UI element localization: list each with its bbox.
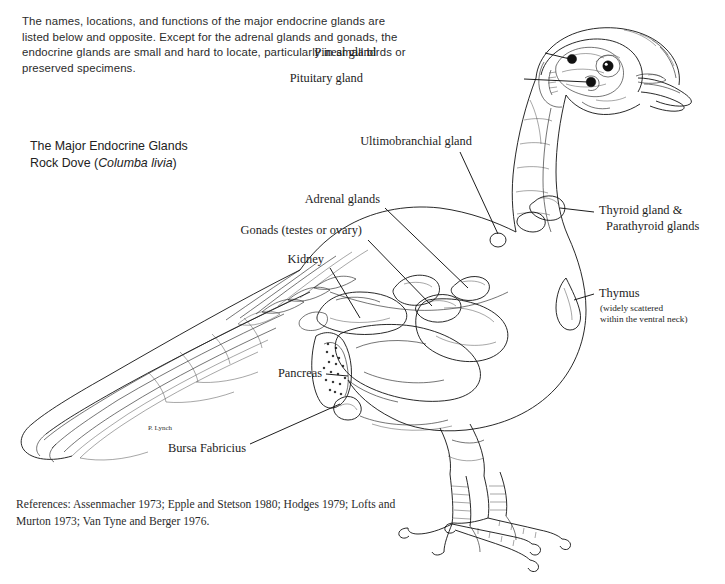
legs-and-feet — [399, 424, 571, 572]
leader-lines — [250, 53, 594, 444]
label-thymus-note-line2: within the ventral neck) — [600, 314, 688, 325]
kidney-shape — [317, 292, 407, 335]
leader-adrenal — [385, 208, 468, 288]
label-parathyroid-glands-line2: Parathyroid glands — [606, 219, 699, 234]
leader-bursa — [250, 404, 340, 444]
subtitle-common-name: Rock Dove ( — [30, 156, 98, 170]
leader-thyroid — [560, 208, 594, 212]
figure-title-block: The Major Endocrine Glands Rock Dove (Co… — [30, 138, 188, 171]
leader-pancreas — [326, 374, 348, 376]
label-bursa-fabricius: Bursa Fabricius — [168, 441, 246, 456]
label-thymus-note-line1: (widely scattered — [600, 303, 663, 314]
artist-signature-text: P. Lynch — [148, 424, 173, 432]
label-pineal-gland: Pineal gland — [314, 45, 376, 60]
figure-subtitle: Rock Dove (Columba livia) — [30, 155, 188, 172]
leader-kidney — [330, 268, 360, 318]
label-pancreas: Pancreas — [278, 366, 322, 381]
references-text: References: Assenmacher 1973; Epple and … — [16, 497, 396, 530]
wing-and-tail-feathers: P. Lynch — [21, 250, 368, 462]
bursa-fabricius-shape — [334, 397, 362, 420]
label-kidney: Kidney — [288, 252, 324, 267]
ultimobranchial-gland-shape — [490, 233, 506, 247]
subtitle-close-paren: ) — [173, 156, 177, 170]
label-adrenal-glands: Adrenal glands — [305, 192, 380, 207]
label-thymus: Thymus — [599, 286, 640, 301]
label-ultimobranchial-gland: Ultimobranchial gland — [360, 134, 472, 149]
illustration-page: The names, locations, and functions of t… — [0, 0, 725, 584]
bird-body-outline — [300, 207, 586, 431]
leader-pineal — [545, 53, 570, 59]
thyroid-gland-shape — [530, 196, 565, 221]
adrenal-gland-shape — [451, 277, 489, 301]
pancreas-stipple — [323, 343, 346, 395]
bird-neck — [512, 78, 568, 236]
gizzard-shape — [416, 299, 508, 362]
leader-thymus — [574, 294, 594, 300]
pituitary-gland-marker — [586, 77, 596, 87]
leader-pituitary — [524, 79, 588, 82]
page-title: The Major Endocrine Glands — [30, 138, 188, 155]
bird-head — [536, 28, 691, 115]
leader-gonads — [368, 240, 432, 306]
gonad-shape-1 — [393, 275, 440, 305]
gonad-shape-2 — [416, 295, 461, 323]
thymus-shape — [556, 278, 581, 330]
label-pituitary-gland: Pituitary gland — [290, 71, 363, 86]
label-gonads: Gonads (testes or ovary) — [241, 223, 362, 238]
parathyroid-gland-shape — [517, 212, 545, 232]
intestine-mass — [335, 324, 480, 401]
pineal-gland-marker — [567, 54, 576, 63]
label-thyroid-gland-line1: Thyroid gland & — [599, 203, 682, 218]
leader-ultimobranchial — [460, 152, 498, 234]
species-name: Columba livia — [98, 156, 172, 170]
